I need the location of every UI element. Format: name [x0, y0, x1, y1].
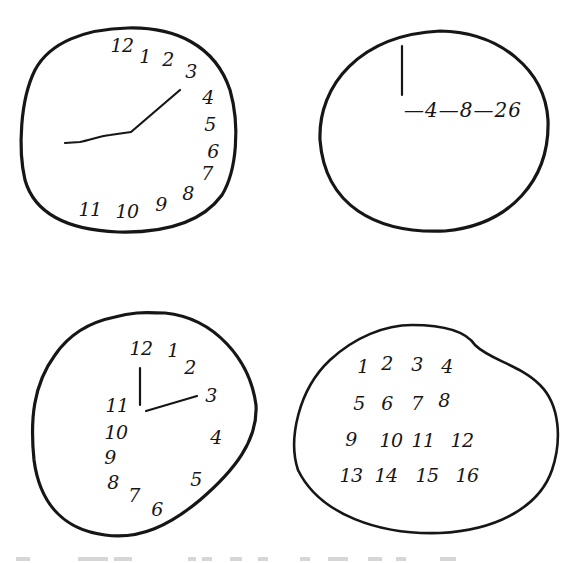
caption-remnant — [0, 0, 577, 563]
